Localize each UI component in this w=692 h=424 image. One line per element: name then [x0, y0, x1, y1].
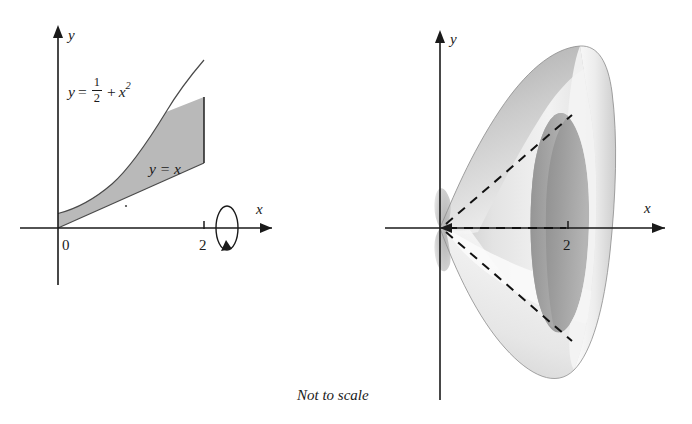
left-x-tick-label-2: 2	[199, 237, 207, 253]
right-x-axis-arrowhead	[652, 223, 665, 233]
figure-container: x y 0 2 y = x	[0, 0, 692, 424]
right-panel-group: x y 2	[385, 30, 665, 400]
left-y-axis-label: y	[66, 27, 75, 43]
left-x-axis-arrowhead	[260, 223, 272, 233]
right-y-axis-label: y	[448, 31, 457, 47]
lower-curve-equation-label: y = x	[147, 160, 181, 177]
left-y-axis-arrowhead	[53, 25, 63, 38]
equation-lhs: y	[68, 84, 75, 100]
left-panel-group: x y 0 2 y = x	[20, 25, 272, 285]
equation-variable: x	[119, 84, 126, 100]
figure-caption: Not to scale	[296, 387, 369, 403]
right-x-axis-label: x	[643, 200, 651, 216]
fraction-denominator: 2	[92, 92, 102, 105]
right-y-axis-arrowhead	[435, 30, 445, 43]
right-x-tick-label-2: 2	[563, 237, 571, 253]
left-origin-label: 0	[62, 237, 70, 253]
left-x-axis-label: x	[255, 201, 263, 217]
fraction-numerator: 1	[92, 76, 102, 89]
upper-curve-equation-label: y = 1 2 + x 2	[68, 77, 131, 106]
equation-equals: =	[78, 84, 87, 100]
equation-fraction: 1 2	[92, 76, 102, 105]
equation-plus: +	[107, 84, 116, 100]
equation-exponent: 2	[126, 81, 131, 92]
figure-canvas: x y 0 2 y = x	[0, 0, 692, 424]
scan-speck	[125, 205, 127, 207]
